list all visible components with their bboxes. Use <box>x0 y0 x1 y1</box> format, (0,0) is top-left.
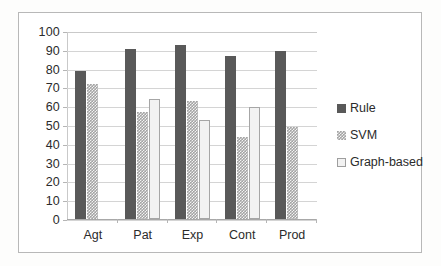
y-tick-label: 40 <box>46 138 60 152</box>
bar-slot <box>149 32 160 219</box>
y-tick-mark <box>63 51 67 52</box>
chart-frame: 1009080706050403020100 AgtPatExpContProd… <box>18 12 422 253</box>
bar-group-exp: Exp <box>168 32 218 219</box>
legend-item-graph-based[interactable]: Graph-based <box>337 155 423 169</box>
y-tick-label: 80 <box>46 63 60 77</box>
bar-slot <box>75 32 86 219</box>
bar-group-pat: Pat <box>118 32 168 219</box>
y-tick-label: 100 <box>39 25 60 39</box>
x-tick-label-agt: Agt <box>68 228 118 242</box>
bar-slot <box>99 32 110 219</box>
legend-label: SVM <box>350 128 377 142</box>
y-tick-label: 20 <box>46 175 60 189</box>
bar-slot <box>199 32 210 219</box>
y-tick-label: 10 <box>46 194 60 208</box>
y-tick-label: 50 <box>46 119 60 133</box>
x-tick-mark <box>167 219 168 223</box>
bar-slot <box>237 32 248 219</box>
legend-swatch-icon <box>337 104 346 113</box>
bar-graph-based-pat[interactable] <box>149 99 160 219</box>
legend-label: Graph-based <box>350 155 423 169</box>
legend-item-svm[interactable]: SVM <box>337 128 423 142</box>
y-tick-mark <box>63 32 67 33</box>
x-tick-label-cont: Cont <box>217 228 267 242</box>
bar-groups: AgtPatExpContProd <box>68 32 317 219</box>
y-tick-label: 70 <box>46 81 60 95</box>
bar-rule-prod[interactable] <box>275 51 286 219</box>
bar-slot <box>299 32 310 219</box>
legend-swatch-icon <box>337 158 346 167</box>
x-tick-label-prod: Prod <box>267 228 317 242</box>
legend-label: Rule <box>350 101 376 115</box>
x-tick-label-exp: Exp <box>168 228 218 242</box>
bar-graph-based-exp[interactable] <box>199 120 210 219</box>
bar-slot <box>249 32 260 219</box>
bar-slot <box>187 32 198 219</box>
bar-svm-agt[interactable] <box>87 84 98 219</box>
x-tick-mark <box>216 219 217 223</box>
y-tick-mark <box>63 126 67 127</box>
bar-svm-cont[interactable] <box>237 137 248 219</box>
bar-slot <box>175 32 186 219</box>
y-tick-mark <box>63 220 67 221</box>
bar-rule-agt[interactable] <box>75 71 86 219</box>
bar-group-prod: Prod <box>267 32 317 219</box>
bar-group-cont: Cont <box>217 32 267 219</box>
bar-slot <box>125 32 136 219</box>
bar-svm-pat[interactable] <box>137 112 148 219</box>
bar-rule-exp[interactable] <box>175 45 186 219</box>
x-tick-mark <box>266 219 267 223</box>
plot-area: 1009080706050403020100 AgtPatExpContProd <box>67 32 317 220</box>
bar-group-agt: Agt <box>68 32 118 219</box>
y-tick-mark <box>63 164 67 165</box>
gridline <box>67 220 317 221</box>
bar-slot <box>87 32 98 219</box>
bar-slot <box>225 32 236 219</box>
bar-rule-cont[interactable] <box>225 56 236 219</box>
y-tick-label: 0 <box>53 213 60 227</box>
bar-slot <box>275 32 286 219</box>
y-tick-mark <box>63 145 67 146</box>
y-tick-mark <box>63 182 67 183</box>
bar-rule-pat[interactable] <box>125 49 136 219</box>
x-tick-mark <box>316 219 317 223</box>
chart-figure: 1009080706050403020100 AgtPatExpContProd… <box>0 0 441 266</box>
y-tick-mark <box>63 70 67 71</box>
y-tick-mark <box>63 88 67 89</box>
y-tick-label: 60 <box>46 100 60 114</box>
x-tick-label-pat: Pat <box>118 228 168 242</box>
y-tick-mark <box>63 107 67 108</box>
legend-item-rule[interactable]: Rule <box>337 101 423 115</box>
y-tick-label: 90 <box>46 44 60 58</box>
bar-svm-exp[interactable] <box>187 101 198 219</box>
bar-graph-based-cont[interactable] <box>249 107 260 219</box>
bar-slot <box>287 32 298 219</box>
x-tick-mark <box>117 219 118 223</box>
bar-svm-prod[interactable] <box>287 127 298 219</box>
legend-swatch-icon <box>337 131 346 140</box>
bar-slot <box>137 32 148 219</box>
y-tick-label: 30 <box>46 157 60 171</box>
chart-legend: RuleSVMGraph-based <box>337 101 423 169</box>
y-tick-mark <box>63 201 67 202</box>
